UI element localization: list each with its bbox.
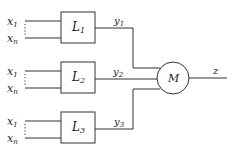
y2-label: y2 bbox=[112, 66, 124, 79]
y1-label: y1 bbox=[113, 15, 124, 28]
l1-input-xn-label: xn bbox=[7, 32, 18, 46]
block-diagram: x1 xn L1 y1 x1 xn L2 y2 x1 xn L3 y3 M z bbox=[0, 0, 241, 156]
l2-input-x1-label: x1 bbox=[7, 65, 18, 79]
y3-label: y3 bbox=[113, 116, 125, 129]
block-l2-label: L2 bbox=[71, 70, 85, 85]
block-l3-label: L3 bbox=[71, 120, 85, 135]
block-l1-label: L1 bbox=[71, 20, 85, 35]
wire-y1 bbox=[95, 28, 160, 68]
wire-y3 bbox=[95, 89, 160, 129]
l3-input-x1-label: x1 bbox=[7, 115, 18, 129]
l1-input-x1-label: x1 bbox=[7, 15, 18, 29]
output-z-label: z bbox=[212, 65, 219, 76]
combiner-m-label: M bbox=[167, 72, 180, 85]
l3-input-xn-label: xn bbox=[7, 132, 18, 146]
l2-input-xn-label: xn bbox=[7, 82, 18, 96]
